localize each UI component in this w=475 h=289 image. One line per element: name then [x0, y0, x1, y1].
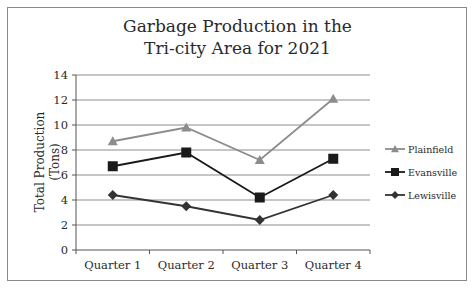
diamond-marker-icon: [181, 201, 191, 211]
x-axis-labels: Quarter 1Quarter 2Quarter 3Quarter 4: [84, 258, 362, 272]
square-marker-icon: [328, 154, 338, 164]
legend-item-evansville: Evansville: [385, 167, 457, 178]
legend-label: Evansville: [408, 167, 457, 178]
y-tick-label: 2: [61, 218, 68, 232]
series-lines: [108, 94, 339, 225]
line-chart: Total Production (Tons) 02468101214 Quar…: [0, 0, 475, 289]
square-marker-icon: [255, 193, 265, 203]
y-tick-label: 10: [53, 118, 68, 132]
y-tick-label: 14: [53, 68, 68, 82]
legend: PlainfieldEvansvilleLewisville: [385, 144, 457, 201]
y-axis-title-line-1: Total Production: [33, 111, 47, 212]
series-lewisville: [108, 190, 339, 225]
series-line: [113, 195, 334, 220]
series-line: [113, 99, 334, 160]
triangle-marker-icon: [328, 94, 338, 103]
square-marker-icon: [391, 168, 399, 176]
y-tick-label: 4: [61, 193, 68, 207]
x-axis-label: Quarter 3: [231, 258, 288, 272]
x-axis-label: Quarter 2: [158, 258, 215, 272]
square-marker-icon: [108, 161, 118, 171]
diamond-marker-icon: [391, 191, 399, 199]
legend-label: Lewisville: [408, 190, 456, 201]
diamond-marker-icon: [328, 190, 338, 200]
diamond-marker-icon: [108, 190, 118, 200]
x-axis-label: Quarter 4: [305, 258, 362, 272]
diamond-marker-icon: [255, 215, 265, 225]
legend-label: Plainfield: [408, 144, 453, 155]
gridlines: [76, 75, 370, 225]
x-axis-label: Quarter 1: [84, 258, 141, 272]
y-tick-label: 0: [61, 243, 68, 257]
triangle-marker-icon: [181, 123, 191, 132]
y-tick-label: 12: [53, 93, 68, 107]
square-marker-icon: [181, 148, 191, 158]
y-tick-label: 8: [61, 143, 68, 157]
y-tick-label: 6: [61, 168, 68, 182]
legend-item-lewisville: Lewisville: [385, 190, 456, 201]
series-plainfield: [108, 94, 339, 164]
legend-item-plainfield: Plainfield: [385, 144, 453, 155]
